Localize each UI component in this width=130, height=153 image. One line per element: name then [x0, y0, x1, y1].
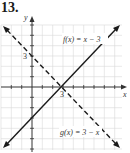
x-axis-arrow-icon [121, 85, 127, 90]
graph: y x 3 3 f(x) = x − 3 g(x) = 3 − x [0, 0, 130, 153]
y-axis-arrow-icon [30, 16, 35, 22]
y-tick-label-3: 3 [23, 52, 27, 61]
y-axis-label: y [23, 13, 28, 22]
x-axis-label: x [122, 90, 127, 99]
series-g-label: g(x) = 3 − x [60, 128, 100, 137]
series-f-label: f(x) = x − 3 [63, 35, 100, 44]
x-tick-label-3: 3 [60, 90, 64, 99]
